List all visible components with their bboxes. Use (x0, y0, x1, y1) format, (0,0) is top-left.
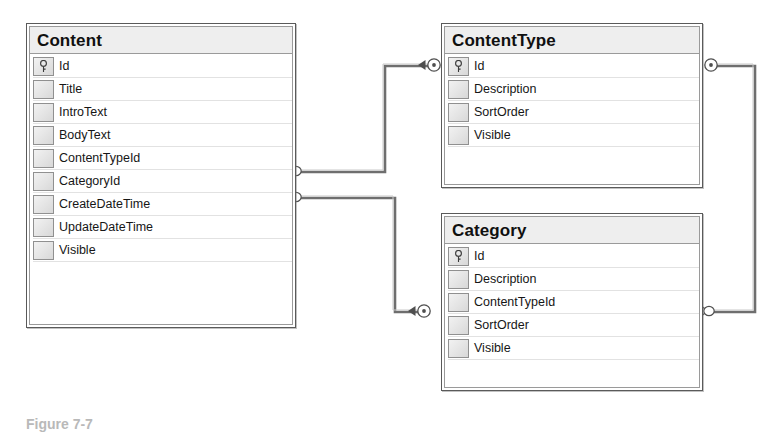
column-handle-icon (33, 218, 54, 237)
relationship-contenttype-category[interactable] (695, 59, 755, 316)
figure-caption: Figure 7-7 (26, 416, 93, 436)
column-handle-icon (33, 149, 54, 168)
key-icon (448, 247, 469, 266)
column-name: CreateDateTime (59, 198, 150, 211)
column-handle-icon (33, 126, 54, 145)
column-row[interactable]: Description (448, 78, 699, 101)
entity-title: Category (452, 222, 527, 239)
column-row[interactable]: ContentTypeId (33, 147, 292, 170)
column-name: IntroText (59, 106, 107, 119)
column-row[interactable]: Visible (448, 337, 699, 360)
column-handle-icon (33, 103, 54, 122)
column-row[interactable]: Id (33, 55, 292, 78)
column-row[interactable]: ContentTypeId (448, 291, 699, 314)
entity-title: Content (37, 32, 102, 49)
column-name: BodyText (59, 129, 110, 142)
entity-title: ContentType (452, 32, 556, 49)
column-list-contenttype: Id Description SortOrder Visible (445, 54, 699, 184)
column-handle-icon (33, 241, 54, 260)
column-row[interactable]: SortOrder (448, 314, 699, 337)
column-name: SortOrder (474, 319, 529, 332)
column-row[interactable]: Title (33, 78, 292, 101)
entity-inner: Category Id Description (444, 216, 700, 388)
entity-table-category[interactable]: Category Id Description (441, 213, 703, 391)
column-row[interactable]: BodyText (33, 124, 292, 147)
column-handle-icon (448, 103, 469, 122)
column-list-category: Id Description ContentTypeId SortOrder V (445, 244, 699, 387)
key-relationship-icon (408, 305, 430, 317)
column-row[interactable]: Visible (33, 239, 292, 262)
column-handle-icon (33, 80, 54, 99)
column-name: ContentTypeId (59, 152, 140, 165)
column-handle-icon (448, 316, 469, 335)
entity-header-content[interactable]: Content (30, 27, 292, 54)
entity-table-contenttype[interactable]: ContentType Id Description (441, 23, 703, 188)
column-name: Visible (474, 129, 511, 142)
column-name: Description (474, 273, 537, 286)
key-relationship-icon (418, 59, 440, 71)
column-row[interactable]: Visible (448, 124, 699, 147)
column-handle-icon (448, 80, 469, 99)
key-icon (448, 57, 469, 76)
column-name: Id (59, 60, 69, 73)
column-row[interactable]: Id (448, 245, 699, 268)
entity-table-content[interactable]: Content Id Title (26, 23, 296, 328)
column-name: Id (474, 60, 484, 73)
column-handle-icon (448, 339, 469, 358)
empty-row-area[interactable] (33, 262, 292, 324)
column-name: CategoryId (59, 175, 120, 188)
column-handle-icon (448, 293, 469, 312)
relationship-content-contenttype[interactable] (282, 59, 440, 176)
column-row[interactable]: SortOrder (448, 101, 699, 124)
column-row[interactable]: CategoryId (33, 170, 292, 193)
empty-row-area[interactable] (448, 360, 699, 387)
entity-inner: Content Id Title (29, 26, 293, 325)
column-name: Visible (474, 342, 511, 355)
column-handle-icon (33, 172, 54, 191)
entity-header-category[interactable]: Category (445, 217, 699, 244)
column-row[interactable]: CreateDateTime (33, 193, 292, 216)
column-name: Title (59, 83, 82, 96)
key-icon (33, 57, 54, 76)
relationship-content-category[interactable] (282, 192, 430, 317)
diagram-canvas: Content Id Title (0, 0, 770, 436)
column-row[interactable]: IntroText (33, 101, 292, 124)
column-name: ContentTypeId (474, 296, 555, 309)
column-handle-icon (33, 195, 54, 214)
column-row[interactable]: Id (448, 55, 699, 78)
column-row[interactable]: Description (448, 268, 699, 291)
entity-header-contenttype[interactable]: ContentType (445, 27, 699, 54)
column-handle-icon (448, 126, 469, 145)
column-name: SortOrder (474, 106, 529, 119)
column-name: Visible (59, 244, 96, 257)
column-name: Description (474, 83, 537, 96)
entity-inner: ContentType Id Description (444, 26, 700, 185)
column-name: UpdateDateTime (59, 221, 153, 234)
column-list-content: Id Title IntroText BodyText ContentTypeI (30, 54, 292, 324)
column-name: Id (474, 250, 484, 263)
column-row[interactable]: UpdateDateTime (33, 216, 292, 239)
empty-row-area[interactable] (448, 147, 699, 184)
column-handle-icon (448, 270, 469, 289)
